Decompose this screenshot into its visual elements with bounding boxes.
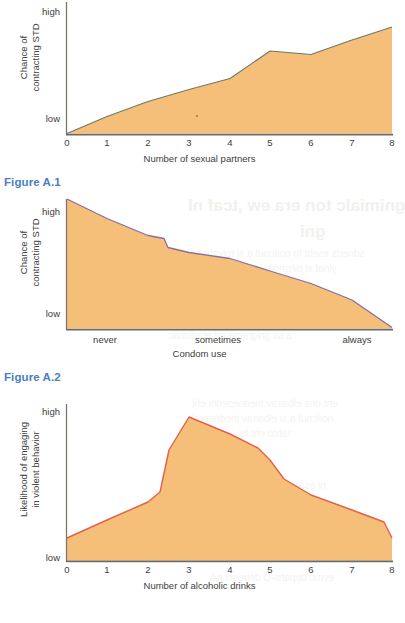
chart1-ink-speck [196, 115, 198, 117]
chart2-area-fill [67, 199, 392, 329]
chart3-x-tick-0: 0 [57, 564, 77, 575]
chart1-x-tick-7: 7 [342, 137, 362, 148]
chart3-x-tick-1: 1 [97, 564, 117, 575]
chart1-x-tick-4: 4 [220, 137, 240, 148]
chart1-x-tick-5: 5 [260, 137, 280, 148]
figure-a2: Chance of contracting STD high low never… [0, 195, 399, 385]
chart3-x-tick-5: 5 [260, 564, 280, 575]
chart3-x-tick-4: 4 [220, 564, 240, 575]
chart3-plot-area [0, 390, 399, 575]
chart1-x-tick-8: 8 [382, 137, 402, 148]
chart1-x-axis-title: Number of sexual partners [0, 153, 399, 164]
chart3-x-axis-title: Number of alcoholic drinks [0, 580, 399, 591]
chart1-x-tick-0: 0 [57, 137, 77, 148]
chart3-area-fill [67, 417, 392, 561]
chart2-x-tick-sometimes: sometimes [183, 334, 253, 345]
chart1-x-tick-3: 3 [179, 137, 199, 148]
chart3-x-tick-2: 2 [138, 564, 158, 575]
chart3-x-tick-8: 8 [382, 564, 402, 575]
chart1-x-tick-2: 2 [138, 137, 158, 148]
chart3-x-tick-7: 7 [342, 564, 362, 575]
chart1-x-tick-1: 1 [97, 137, 117, 148]
chart3-x-tick-6: 6 [301, 564, 321, 575]
chart1-plot-area [0, 0, 399, 145]
chart2-plot-area [0, 195, 399, 340]
chart2-x-tick-always: always [327, 334, 387, 345]
figure-a2-caption: Figure A.2 [4, 371, 61, 383]
figure-a1: Chance of contracting STD high low 0 1 2… [0, 0, 399, 190]
chart1-x-tick-6: 6 [301, 137, 321, 148]
chart2-x-tick-never: never [75, 334, 135, 345]
figure-a3: Likelihood of engaging in violent behavi… [0, 390, 399, 623]
chart2-x-axis-title: Condom use [0, 348, 399, 359]
chart3-x-tick-3: 3 [179, 564, 199, 575]
figure-a1-caption: Figure A.1 [4, 176, 61, 188]
